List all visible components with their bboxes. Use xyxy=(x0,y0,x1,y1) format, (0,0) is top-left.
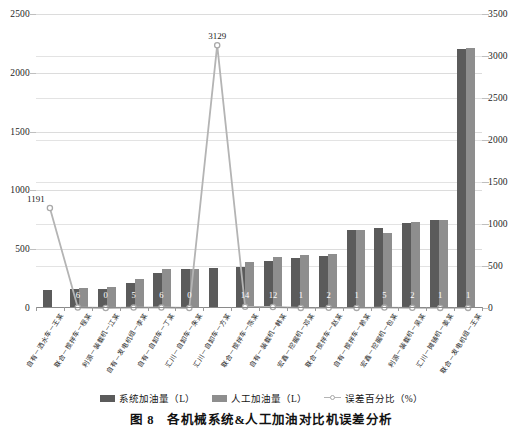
x-axis-tick xyxy=(36,307,37,311)
error-point-label: 1 xyxy=(299,290,303,300)
bar-group[interactable] xyxy=(93,14,121,308)
error-point-label: 1 xyxy=(438,290,442,300)
y-axis-right-tick-label: 1500 xyxy=(488,177,508,187)
x-axis-tick xyxy=(259,307,260,311)
x-axis-labels: 自有－洒水车－王某联合－搅拌车－程某利源－装载机－江某自有－发电机组－李某自有－… xyxy=(36,312,482,390)
bar-manual[interactable] xyxy=(245,262,254,308)
bar-system[interactable] xyxy=(209,268,218,308)
bar-group[interactable] xyxy=(425,14,453,308)
bar-group[interactable] xyxy=(38,14,66,308)
y-axis-left-tick-mark xyxy=(29,73,36,74)
bar-manual[interactable] xyxy=(300,255,309,308)
legend-line-circle-icon xyxy=(324,394,341,402)
y-axis-left-tick-mark xyxy=(29,14,36,15)
x-axis-tick xyxy=(315,307,316,311)
y-axis-left-tick-label: 0 xyxy=(25,303,30,313)
error-point-label: 14 xyxy=(241,290,250,300)
y-axis-right-tick-mark xyxy=(482,140,489,141)
y-axis-right-tick-label: 500 xyxy=(488,261,503,271)
error-point-label: 1191 xyxy=(27,194,45,204)
x-axis-tick xyxy=(371,307,372,311)
error-point-label: 0 xyxy=(187,290,191,300)
x-axis-tick xyxy=(398,307,399,311)
y-axis-right-tick-mark xyxy=(482,266,489,267)
bar-system[interactable] xyxy=(43,290,52,308)
error-point-label: 5 xyxy=(382,290,386,300)
x-axis-tick xyxy=(148,307,149,311)
y-axis-right-tick-label: 3000 xyxy=(488,51,508,61)
error-point-label: 1 xyxy=(354,290,358,300)
x-axis-tick xyxy=(175,307,176,311)
plot-canvas: 05001000150020002500 0500100015002000250… xyxy=(36,14,482,308)
bar-group[interactable] xyxy=(204,14,232,308)
bar-group[interactable] xyxy=(287,14,315,308)
bar-group[interactable] xyxy=(231,14,259,308)
bar-manual[interactable] xyxy=(162,269,171,308)
bar-manual[interactable] xyxy=(79,288,88,308)
figure-caption: 图 8 各机械系统&人工加油对比机误差分析 xyxy=(0,409,523,428)
x-axis-tick xyxy=(482,307,483,311)
legend-label-system: 系统加油量（L） xyxy=(119,391,195,405)
y-axis-right-tick-mark xyxy=(482,182,489,183)
chart-plot-area: 05001000150020002500 0500100015002000250… xyxy=(0,0,523,330)
x-axis-tick xyxy=(287,307,288,311)
bar-manual[interactable] xyxy=(190,269,199,308)
bar-group[interactable] xyxy=(149,14,177,308)
y-axis-right-tick-mark xyxy=(482,14,489,15)
x-axis-tick xyxy=(92,307,93,311)
y-axis-right-tick-mark xyxy=(482,224,489,225)
legend-item-error[interactable]: 误差百分比（%） xyxy=(324,391,423,405)
legend-swatch-manual-icon xyxy=(212,395,227,402)
y-axis-left-tick-label: 2000 xyxy=(10,68,30,78)
y-axis-right-tick-mark xyxy=(482,308,489,309)
bar-system[interactable] xyxy=(291,258,300,308)
y-axis-left-tick-label: 500 xyxy=(15,244,30,254)
y-axis-left-tick-label: 2500 xyxy=(10,9,30,19)
x-axis-tick xyxy=(426,307,427,311)
legend-item-system[interactable]: 系统加油量（L） xyxy=(100,391,195,405)
y-axis-right-tick-label: 3500 xyxy=(488,9,508,19)
bar-group[interactable] xyxy=(66,14,94,308)
bar-system[interactable] xyxy=(319,256,328,308)
legend-swatch-system-icon xyxy=(100,395,115,402)
error-point-label: 0 xyxy=(104,290,108,300)
y-axis-left-tick-mark xyxy=(29,132,36,133)
x-axis-tick xyxy=(343,307,344,311)
x-axis-tick xyxy=(203,307,204,311)
legend-label-error: 误差百分比（%） xyxy=(345,391,423,405)
bar-system[interactable] xyxy=(264,261,273,308)
y-axis-left-tick-label: 1500 xyxy=(10,127,30,137)
error-point-label: 1 xyxy=(466,290,470,300)
y-axis-left-tick-mark xyxy=(29,190,36,191)
error-point-label: 2 xyxy=(327,290,331,300)
bar-group[interactable] xyxy=(176,14,204,308)
legend-item-manual[interactable]: 人工加油量（L） xyxy=(212,391,307,405)
error-point-label: 12 xyxy=(269,290,278,300)
y-axis-left-tick-mark xyxy=(29,249,36,250)
x-axis-tick xyxy=(231,307,232,311)
bar-manual[interactable] xyxy=(135,279,144,308)
y-axis-right-tick-label: 2500 xyxy=(488,93,508,103)
error-point-label: 3129 xyxy=(208,31,226,41)
x-axis-tick xyxy=(64,307,65,311)
bar-group[interactable] xyxy=(121,14,149,308)
legend-label-manual: 人工加油量（L） xyxy=(231,391,307,405)
bar-system[interactable] xyxy=(236,267,245,308)
y-axis-right-tick-label: 1000 xyxy=(488,219,508,229)
bar-group[interactable] xyxy=(342,14,370,308)
bar-series-container xyxy=(36,14,482,308)
bar-manual[interactable] xyxy=(466,48,475,308)
bar-manual[interactable] xyxy=(273,257,282,308)
figure-container: 05001000150020002500 0500100015002000250… xyxy=(0,0,523,434)
bar-system[interactable] xyxy=(181,269,190,308)
bar-system[interactable] xyxy=(457,49,466,308)
x-axis-tick xyxy=(120,307,121,311)
bar-group[interactable] xyxy=(314,14,342,308)
bar-manual[interactable] xyxy=(107,287,116,308)
error-point-label: 2 xyxy=(410,290,414,300)
bar-group[interactable] xyxy=(259,14,287,308)
y-axis-right-tick-label: 2000 xyxy=(488,135,508,145)
bar-group[interactable] xyxy=(397,14,425,308)
bar-group[interactable] xyxy=(452,14,480,308)
bar-group[interactable] xyxy=(370,14,398,308)
